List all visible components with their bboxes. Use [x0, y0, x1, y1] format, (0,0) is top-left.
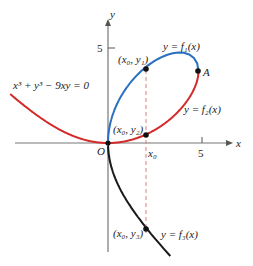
y-tick-label: 5 [97, 42, 103, 54]
f3-label: y = f₃(x) [160, 228, 198, 241]
point-a [195, 68, 201, 74]
point-a-label: A [202, 66, 210, 78]
point-x0-y1 [143, 66, 149, 72]
f2-label: y = f₂(x) [183, 103, 221, 116]
point-x0-y3-label: (x₀, y₃) [113, 227, 144, 240]
equation-label: x³ + y³ − 9xy = 0 [12, 79, 89, 91]
x-axis-label: x [235, 137, 241, 149]
point-x0-y1-label: (x₀, y₁) [118, 53, 149, 66]
y-axis-arrow-icon [105, 19, 111, 26]
curve-f2-left-branch [10, 94, 108, 143]
origin-label: O [97, 145, 105, 157]
x-tick-label: 5 [198, 147, 204, 159]
x-axis-arrow-icon [226, 140, 233, 146]
folium-diagram: y x 5 5 O x₀ x³ + y³ − 9xy = 0 y = f₁(x)… [0, 0, 253, 266]
point-x0-y2 [143, 132, 149, 138]
x0-label: x₀ [147, 147, 157, 159]
point-x0-y2-label: (x₀, y₂) [113, 123, 144, 136]
y-axis-label: y [109, 8, 115, 20]
f1-label: y = f₁(x) [162, 40, 200, 53]
origin-point [105, 140, 110, 145]
point-x0-y3 [143, 226, 149, 232]
